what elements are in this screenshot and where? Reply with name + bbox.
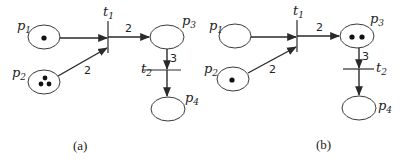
panel-a: p1 p2 p3 p4 t1 t2 2 2 <box>12 4 199 153</box>
svg-text:t1: t1 <box>293 3 304 20</box>
place-p3: p3 <box>150 13 196 49</box>
place-p2: p2 <box>204 61 249 91</box>
transition-t1: t1 <box>103 4 114 53</box>
token <box>43 76 48 81</box>
svg-text:p3: p3 <box>370 11 384 28</box>
arc-weight: 2 <box>269 63 276 76</box>
token <box>349 34 354 39</box>
caption-b: (b) <box>316 137 331 152</box>
svg-text:p1: p1 <box>209 18 223 35</box>
place-p1: p1 <box>209 18 251 48</box>
place-p1: p1 <box>17 18 60 49</box>
token <box>41 35 46 40</box>
caption-a: (a) <box>73 138 87 153</box>
token <box>229 77 234 82</box>
place-p4: p4 <box>151 90 199 121</box>
svg-text:t1: t1 <box>103 4 114 21</box>
place-p2: p2 <box>12 65 60 94</box>
token <box>47 82 52 87</box>
arc-weight: 2 <box>84 64 91 77</box>
arc-p2-t1 <box>58 48 107 76</box>
place-p4: p4 <box>342 96 392 120</box>
svg-text:p4: p4 <box>378 98 392 115</box>
arc-weight: 3 <box>170 52 177 65</box>
petri-net-figure: p1 p2 p3 p4 t1 t2 2 2 <box>0 0 400 162</box>
svg-text:p4: p4 <box>185 90 199 107</box>
token <box>39 82 44 87</box>
svg-text:p1: p1 <box>17 18 31 35</box>
svg-text:t2: t2 <box>376 60 387 77</box>
transition-t1: t1 <box>293 3 304 52</box>
panel-b: p1 p2 p3 p4 t1 t2 2 2 3 <box>204 3 392 152</box>
arc-weight: 3 <box>362 50 369 63</box>
arc-weight: 2 <box>125 22 132 35</box>
arc-weight: 2 <box>316 21 323 34</box>
svg-text:p2: p2 <box>12 65 26 82</box>
svg-text:p3: p3 <box>182 13 196 30</box>
place-p3: p3 <box>340 11 384 48</box>
svg-text:t2: t2 <box>141 61 152 78</box>
token <box>359 34 364 39</box>
svg-text:p2: p2 <box>204 61 218 78</box>
